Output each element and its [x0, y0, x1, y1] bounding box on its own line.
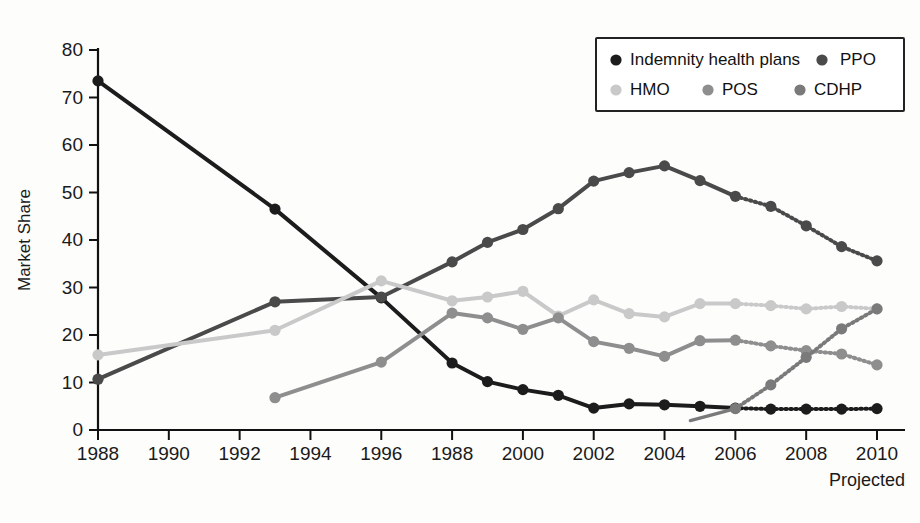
data-point-marker: [553, 203, 564, 214]
y-tick-label: 0: [72, 419, 83, 440]
x-tick-label: 1990: [148, 443, 190, 464]
data-point-marker: [269, 296, 280, 307]
y-tick-label: 10: [62, 372, 83, 393]
data-point-marker: [624, 167, 635, 178]
legend-marker-dot: [610, 84, 621, 95]
chart-legend[interactable]: Indemnity health plansPPOHMOPOSCDHP: [596, 38, 904, 111]
y-tick-label: 60: [62, 134, 83, 155]
data-point-marker: [730, 298, 741, 309]
data-point-marker: [482, 237, 493, 248]
legend-marker-dot: [816, 54, 827, 65]
data-point-marker: [269, 392, 280, 403]
x-tick-label: 1988: [431, 443, 473, 464]
series-lines: [92, 75, 882, 420]
data-point-marker: [694, 298, 705, 309]
data-point-marker: [624, 308, 635, 319]
x-tick-label: 2002: [573, 443, 615, 464]
chart-canvas: 0102030405060708019881990199219941996198…: [0, 0, 920, 523]
data-point-marker: [588, 294, 599, 305]
legend-box: [596, 38, 904, 111]
data-point-marker: [553, 390, 564, 401]
data-point-marker: [624, 398, 635, 409]
data-point-marker: [801, 404, 812, 415]
x-tick-label: 1992: [218, 443, 260, 464]
x-tick-label: 1996: [360, 443, 402, 464]
legend-marker-dot: [610, 54, 621, 65]
data-point-marker: [836, 348, 847, 359]
data-point-marker: [765, 379, 776, 390]
y-tick-label: 20: [62, 324, 83, 345]
data-point-marker: [730, 191, 741, 202]
data-point-marker: [588, 336, 599, 347]
data-point-marker: [517, 384, 528, 395]
data-point-marker: [801, 303, 812, 314]
x-tick-label: 2004: [643, 443, 686, 464]
y-tick-label: 80: [62, 39, 83, 60]
legend-item-indemnity-health-plans[interactable]: Indemnity health plans: [610, 50, 800, 69]
data-point-marker: [801, 220, 812, 231]
x-tick-label: 2008: [785, 443, 827, 464]
data-point-marker: [765, 201, 776, 212]
data-point-marker: [269, 204, 280, 215]
data-point-marker: [694, 175, 705, 186]
data-point-marker: [836, 404, 847, 415]
data-point-marker: [447, 295, 458, 306]
y-tick-label: 30: [62, 277, 83, 298]
data-point-marker: [376, 357, 387, 368]
series-line-solid: [98, 281, 735, 355]
data-point-marker: [871, 303, 882, 314]
data-point-marker: [730, 335, 741, 346]
data-point-marker: [588, 176, 599, 187]
data-point-marker: [553, 312, 564, 323]
data-point-marker: [871, 403, 882, 414]
data-point-marker: [447, 357, 458, 368]
data-point-marker: [482, 376, 493, 387]
data-point-marker: [482, 312, 493, 323]
x-tick-label: 1994: [289, 443, 332, 464]
market-share-line-chart: 0102030405060708019881990199219941996198…: [0, 0, 920, 523]
legend-item-label: Indemnity health plans: [630, 50, 800, 69]
series-ppo: [92, 160, 882, 385]
data-point-marker: [376, 291, 387, 302]
y-tick-label: 70: [62, 87, 83, 108]
legend-item-label: CDHP: [814, 80, 862, 99]
data-point-marker: [517, 324, 528, 335]
data-point-marker: [694, 335, 705, 346]
legend-marker-dot: [702, 84, 713, 95]
legend-item-label: HMO: [630, 80, 670, 99]
data-point-marker: [624, 343, 635, 354]
data-point-marker: [447, 256, 458, 267]
data-point-marker: [269, 325, 280, 336]
data-point-marker: [694, 401, 705, 412]
data-point-marker: [92, 75, 103, 86]
data-point-marker: [92, 374, 103, 385]
legend-item-label: PPO: [840, 50, 876, 69]
data-point-marker: [659, 311, 670, 322]
series-pos: [269, 308, 882, 404]
x-tick-label: 2010: [856, 443, 898, 464]
data-point-marker: [92, 349, 103, 360]
data-point-marker: [517, 224, 528, 235]
data-point-marker: [801, 352, 812, 363]
x-tick-label: 2006: [714, 443, 756, 464]
y-tick-label: 40: [62, 229, 83, 250]
data-point-marker: [836, 301, 847, 312]
data-point-marker: [836, 241, 847, 252]
series-line-solid: [98, 81, 735, 408]
series-line-solid: [98, 166, 735, 379]
legend-item-label: POS: [722, 80, 758, 99]
data-point-marker: [376, 275, 387, 286]
x-tick-label: 1988: [77, 443, 119, 464]
data-point-marker: [871, 255, 882, 266]
y-tick-label: 50: [62, 182, 83, 203]
data-point-marker: [482, 291, 493, 302]
data-point-marker: [765, 340, 776, 351]
data-point-marker: [659, 351, 670, 362]
data-point-marker: [588, 403, 599, 414]
data-point-marker: [659, 399, 670, 410]
projected-annotation: Projected: [829, 470, 905, 490]
data-point-marker: [871, 359, 882, 370]
y-axis-title: Market Share: [15, 189, 34, 291]
data-point-marker: [765, 404, 776, 415]
data-point-marker: [659, 160, 670, 171]
